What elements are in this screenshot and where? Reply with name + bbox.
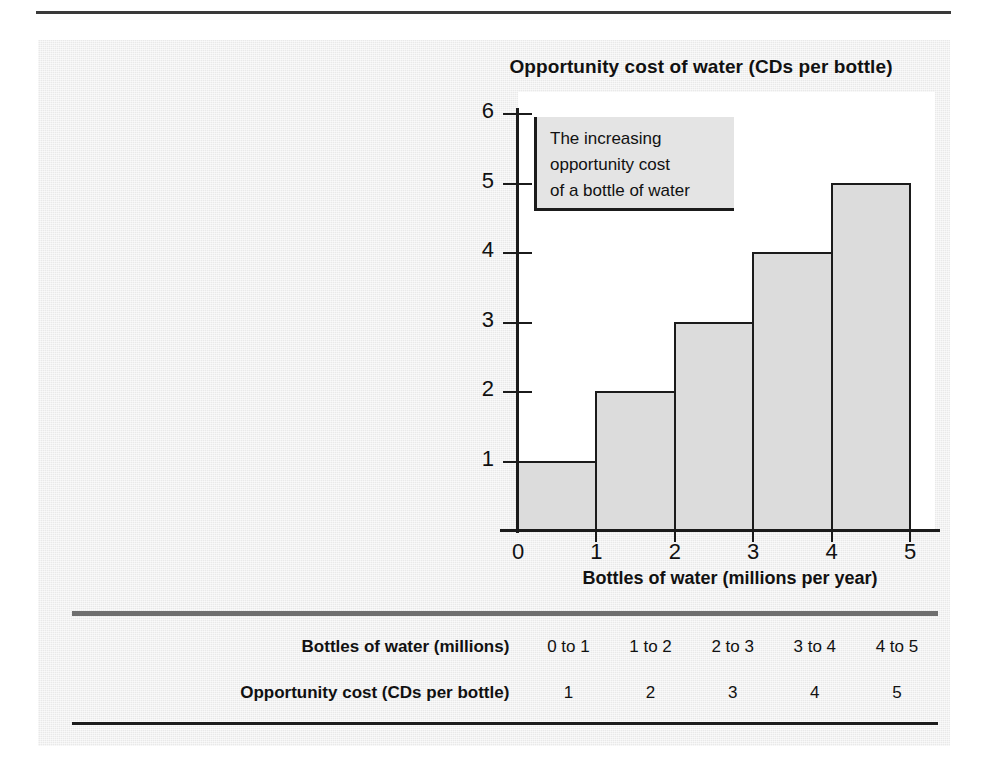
x-tick-label: 4 xyxy=(812,539,852,565)
y-tick-label: 1 xyxy=(462,446,494,472)
table-cell: 4 xyxy=(774,670,856,716)
x-tick-label: 5 xyxy=(890,539,930,565)
y-tick-mark xyxy=(503,322,532,324)
annotation-line-3: of a bottle of water xyxy=(550,178,734,204)
x-tick-label: 0 xyxy=(498,539,538,565)
table-cell: 2 to 3 xyxy=(692,624,774,670)
table-cell: 3 to 4 xyxy=(774,624,856,670)
annotation-line-2: opportunity cost xyxy=(550,152,734,178)
bar xyxy=(595,391,675,531)
y-tick-label: 2 xyxy=(462,376,494,402)
table-cell: 2 xyxy=(609,670,691,716)
x-axis-caption: Bottles of water (millions per year) xyxy=(520,568,940,589)
table-cell: 0 to 1 xyxy=(527,624,609,670)
table-top-rule xyxy=(72,611,938,616)
table-bottom-rule xyxy=(72,722,938,725)
annotation-line-1: The increasing xyxy=(550,126,734,152)
table-row: Bottles of water (millions)0 to 11 to 22… xyxy=(72,624,938,670)
annotation-callout: The increasing opportunity cost of a bot… xyxy=(534,117,734,211)
bar xyxy=(674,322,754,532)
table-row-label: Opportunity cost (CDs per bottle) xyxy=(72,670,527,716)
y-tick-label: 3 xyxy=(462,307,494,333)
table-cell: 1 to 2 xyxy=(609,624,691,670)
y-tick-mark xyxy=(503,391,532,393)
x-tick-label: 1 xyxy=(576,539,616,565)
table-cell: 1 xyxy=(527,670,609,716)
y-tick-label: 6 xyxy=(462,98,494,124)
table-cell: 5 xyxy=(856,670,938,716)
table-cell: 4 to 5 xyxy=(856,624,938,670)
x-axis-line xyxy=(500,529,940,532)
y-tick-label: 5 xyxy=(462,168,494,194)
bar xyxy=(831,183,911,532)
y-tick-mark xyxy=(503,461,532,463)
table-row-label: Bottles of water (millions) xyxy=(72,624,527,670)
bar xyxy=(517,461,597,532)
y-tick-mark xyxy=(503,252,532,254)
y-axis-line xyxy=(516,108,519,533)
table-cell: 3 xyxy=(692,670,774,716)
data-table: Bottles of water (millions)0 to 11 to 22… xyxy=(72,624,938,716)
x-tick-label: 3 xyxy=(733,539,773,565)
x-tick-label: 2 xyxy=(655,539,695,565)
chart-title: Opportunity cost of water (CDs per bottl… xyxy=(466,56,936,78)
bar xyxy=(752,252,832,531)
y-tick-mark xyxy=(503,113,532,115)
y-tick-label: 4 xyxy=(462,237,494,263)
y-tick-mark xyxy=(503,183,532,185)
table-row: Opportunity cost (CDs per bottle)12345 xyxy=(72,670,938,716)
page-top-rule xyxy=(36,11,951,14)
